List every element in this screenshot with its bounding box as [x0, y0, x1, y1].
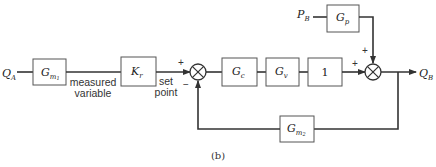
sum2-plus-left: +	[352, 58, 358, 69]
arrow-gp-sum2	[359, 17, 373, 63]
summing-junction-2	[365, 64, 381, 80]
measured-variable-label-2: variable	[75, 87, 112, 99]
input-qa: QA	[2, 67, 16, 82]
output-qb: QB	[419, 67, 433, 82]
input-pb: PB	[296, 8, 310, 23]
sum1-plus: +	[178, 57, 184, 68]
arrow-feedback-sum1	[198, 81, 280, 129]
summing-junction-1	[190, 64, 206, 80]
sum1-minus: −	[183, 79, 189, 90]
block-diagram: QA Gm1 measured variable Kr + set point …	[0, 0, 436, 167]
sum2-plus-top: +	[362, 45, 368, 56]
set-point-label-2: point	[155, 86, 178, 98]
figure-caption: (b)	[211, 150, 225, 161]
block-one-label: 1	[322, 66, 329, 79]
